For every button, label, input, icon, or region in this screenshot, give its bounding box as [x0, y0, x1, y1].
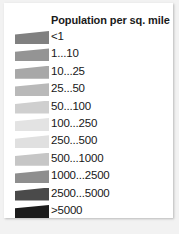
legend-entry-label: 2500...5000 — [51, 187, 110, 199]
legend-swatch-fill — [15, 205, 49, 218]
legend-swatch-fill — [15, 170, 49, 183]
legend-swatch — [15, 188, 49, 201]
legend-swatch-fill — [15, 135, 49, 148]
legend-entry-label: 10...25 — [51, 65, 85, 77]
legend-entry: 1000...2500 — [4, 169, 173, 186]
legend-entry-label: 50...100 — [51, 100, 91, 112]
legend-entry: 2500...5000 — [4, 187, 173, 204]
legend-swatch-fill — [15, 118, 49, 131]
legend-swatch — [15, 48, 49, 61]
legend-swatch — [15, 135, 49, 148]
legend-swatch-fill — [15, 48, 49, 61]
legend-swatch-fill — [15, 153, 49, 166]
legend-swatch-fill — [15, 66, 49, 79]
legend-swatch-fill — [15, 101, 49, 114]
legend-entry-label: 250...500 — [51, 134, 97, 146]
legend-title: Population per sq. mile — [51, 14, 170, 26]
legend-swatch — [15, 101, 49, 114]
legend-swatch — [15, 66, 49, 79]
legend-entry: <1 — [4, 30, 173, 47]
map-legend-card: Population per sq. mile <11...1010...252… — [4, 3, 173, 218]
legend-swatch-fill — [15, 31, 49, 44]
legend-entry-label: 25...50 — [51, 82, 85, 94]
legend-swatch — [15, 153, 49, 166]
legend-entry: 250...500 — [4, 134, 173, 151]
legend-swatch — [15, 170, 49, 183]
legend-entry-label: 100...250 — [51, 117, 97, 129]
legend-swatch — [15, 31, 49, 44]
legend-entry-list: <11...1010...2525...5050...100100...2502… — [4, 30, 173, 218]
legend-entry-label: >5000 — [51, 204, 82, 216]
legend-swatch-fill — [15, 188, 49, 201]
legend-swatch-fill — [15, 83, 49, 96]
legend-entry-label: <1 — [51, 30, 64, 42]
legend-swatch — [15, 205, 49, 218]
legend-entry-label: 1000...2500 — [51, 169, 110, 181]
legend-entry: 50...100 — [4, 100, 173, 117]
legend-entry: 25...50 — [4, 82, 173, 99]
legend-entry-label: 500...1000 — [51, 152, 103, 164]
legend-entry-label: 1...10 — [51, 47, 79, 59]
legend-entry: 1...10 — [4, 47, 173, 64]
legend-entry: >5000 — [4, 204, 173, 218]
legend-entry: 500...1000 — [4, 152, 173, 169]
legend-entry: 10...25 — [4, 65, 173, 82]
legend-entry: 100...250 — [4, 117, 173, 134]
legend-swatch — [15, 118, 49, 131]
legend-swatch — [15, 83, 49, 96]
